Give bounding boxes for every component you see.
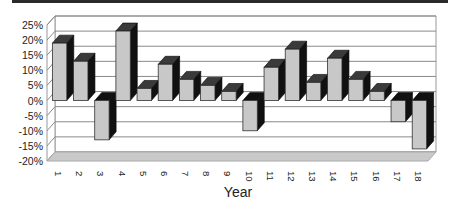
x-tick-label: 11 (265, 171, 276, 181)
bar-side-face (342, 50, 349, 100)
bar-11 (264, 67, 278, 100)
x-tick-label: 2 (74, 171, 85, 176)
y-tick-label: -10% (18, 125, 43, 137)
x-tick-label: 4 (117, 171, 128, 176)
bar-3 (95, 101, 109, 140)
bar-14 (328, 58, 342, 100)
bar-15 (349, 79, 363, 100)
y-tick-label: 5% (28, 79, 43, 91)
bar-4 (116, 31, 130, 101)
x-tick-label: 5 (138, 171, 149, 176)
bar-5 (137, 88, 151, 100)
x-tick-label: 17 (392, 171, 403, 182)
y-tick-label: -15% (18, 140, 43, 152)
x-tick-label: 13 (307, 171, 318, 182)
bar-side-face (130, 23, 137, 101)
y-tick-label: 20% (22, 34, 43, 46)
bar-12 (285, 49, 299, 100)
x-tick-label: 15 (349, 171, 360, 182)
bar-side-face (67, 35, 74, 100)
chart-floor (47, 152, 436, 161)
x-axis-title: Year (224, 184, 253, 200)
x-tick-label: 1 (53, 171, 64, 176)
x-tick-label: 16 (371, 171, 382, 182)
y-tick-label: 0% (28, 95, 43, 107)
x-tick-label: 6 (159, 171, 170, 176)
bar-9 (222, 91, 236, 100)
x-tick-label: 7 (180, 171, 191, 176)
y-tick-label: 25% (22, 19, 43, 31)
x-tick-label: 3 (95, 171, 106, 176)
bar-17 (391, 101, 405, 122)
x-tick-label: 9 (222, 171, 233, 176)
bar-2 (74, 61, 88, 100)
x-tick-label: 18 (413, 171, 424, 182)
y-tick-label: 15% (22, 49, 43, 61)
bar-13 (306, 82, 320, 100)
bar-6 (158, 64, 172, 100)
y-tick-label: -20% (18, 155, 43, 167)
y-tick-label: -5% (24, 110, 43, 122)
x-tick-label: 14 (328, 171, 339, 182)
chart-3d-column: 12345678910111213141516171825%20%15%10%5… (0, 0, 457, 211)
x-tick-label: 12 (286, 171, 297, 182)
bar-10 (243, 101, 257, 131)
bar-8 (201, 85, 215, 100)
bar-16 (370, 91, 384, 100)
x-tick-label: 10 (244, 171, 255, 182)
bar-1 (52, 43, 66, 100)
bar-7 (179, 79, 193, 100)
y-tick-label: 10% (22, 64, 43, 76)
bar-18 (412, 101, 426, 149)
bar-side-face (300, 41, 307, 100)
x-tick-label: 8 (201, 171, 212, 176)
bar-side-face (427, 93, 434, 149)
